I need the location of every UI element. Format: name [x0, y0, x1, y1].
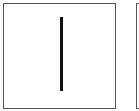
vertical-line-icon: [60, 17, 63, 91]
card-strip: [0, 0, 139, 111]
next-symbol-card[interactable]: [136, 3, 139, 109]
symbol-card[interactable]: [3, 3, 116, 109]
